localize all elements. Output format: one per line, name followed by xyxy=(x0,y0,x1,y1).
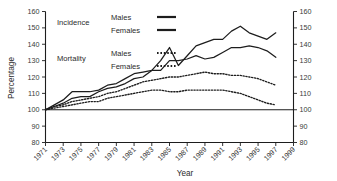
y-tick-label-right: 100 xyxy=(300,105,312,114)
data-series-group xyxy=(46,26,276,110)
x-tick-label: 1971 xyxy=(31,145,49,163)
y-tick-label-right: 130 xyxy=(300,56,312,65)
x-tick-label: 1985 xyxy=(155,145,173,163)
y-tick-label: 130 xyxy=(28,56,40,65)
x-tick-label: 1987 xyxy=(173,145,191,163)
x-tick-label: 1993 xyxy=(226,145,244,163)
y-tick-label: 140 xyxy=(28,40,40,49)
y-axis-left: 8090100110120130140150160 xyxy=(28,7,46,147)
x-tick-label: 1975 xyxy=(67,145,85,163)
y-tick-label: 150 xyxy=(28,23,40,32)
y-tick-label-right: 110 xyxy=(300,89,311,98)
legend-entry-label: Females xyxy=(111,62,140,71)
line-chart: 8090100110120130140150160 80901001101201… xyxy=(0,0,337,181)
x-tick-label: 1989 xyxy=(191,145,209,163)
y-tick-label-right: 160 xyxy=(300,7,312,16)
legend-group-label: Mortality xyxy=(57,54,86,63)
y-axis-title: Percentage xyxy=(7,57,16,99)
y-tick-label-right: 150 xyxy=(300,23,312,32)
y-tick-label-right: 90 xyxy=(300,122,308,131)
y-tick-label-right: 140 xyxy=(300,40,312,49)
y-tick-label: 160 xyxy=(28,7,40,16)
x-tick-label: 1981 xyxy=(120,145,138,163)
y-tick-label: 110 xyxy=(28,89,39,98)
x-axis: 1971197319751977197919811983198519871989… xyxy=(31,143,297,163)
x-tick-label: 1999 xyxy=(279,145,297,163)
x-tick-label: 1997 xyxy=(262,145,280,163)
x-tick-label: 1995 xyxy=(244,145,262,163)
y-tick-label: 80 xyxy=(32,138,40,147)
y-tick-label: 120 xyxy=(28,73,40,82)
x-tick-label: 1973 xyxy=(49,145,67,163)
x-tick-label: 1979 xyxy=(102,145,120,163)
series-line-mortality-males xyxy=(46,72,276,110)
x-tick-label: 1983 xyxy=(138,145,156,163)
legend-entry-label: Males xyxy=(111,13,131,22)
y-tick-label: 100 xyxy=(28,105,40,114)
x-tick-label: 1977 xyxy=(85,145,103,163)
legend-group-label: Incidence xyxy=(57,18,90,27)
y-tick-label-right: 120 xyxy=(300,73,312,82)
chart-figure: 8090100110120130140150160 80901001101201… xyxy=(0,0,337,181)
y-tick-label-right: 80 xyxy=(300,138,308,147)
legend-entry-label: Females xyxy=(111,26,140,35)
x-axis-title: Year xyxy=(177,169,194,178)
x-tick-label: 1991 xyxy=(209,145,227,163)
y-tick-label: 90 xyxy=(32,122,40,131)
legend-entry-label: Males xyxy=(111,49,131,58)
chart-legend: IncidenceMalesFemalesMortalityMalesFemal… xyxy=(57,13,176,71)
y-axis-right: 8090100110120130140150160 xyxy=(294,7,312,147)
